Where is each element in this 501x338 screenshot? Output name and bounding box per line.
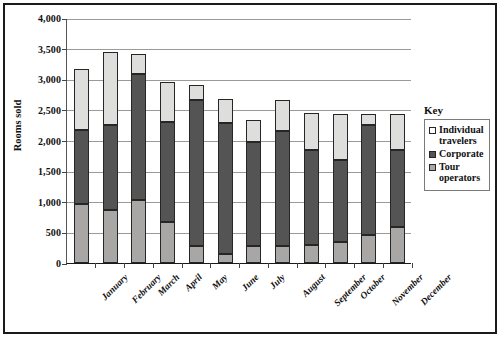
bar-segment-individual[interactable] (246, 120, 261, 142)
y-tick-label: 0 (56, 259, 61, 269)
legend-item[interactable]: Individual travelers (429, 124, 486, 146)
bar-segment-corporate[interactable] (304, 150, 319, 245)
bar-segment-individual[interactable] (131, 54, 146, 75)
bar-segment-tour[interactable] (74, 204, 89, 263)
x-tick-label: January (100, 272, 130, 302)
bar-segment-individual[interactable] (304, 113, 319, 150)
bar-segment-tour[interactable] (246, 246, 261, 263)
y-tick-label: 2,000 (38, 137, 61, 147)
y-tick-label: 4,000 (38, 14, 61, 24)
bar-segment-individual[interactable] (361, 114, 376, 125)
bar-stack[interactable] (246, 120, 261, 263)
bar-segment-individual[interactable] (333, 114, 348, 161)
bar-segment-tour[interactable] (390, 227, 405, 263)
legend-item[interactable]: Corporate (429, 148, 486, 159)
y-axis-tick-labels: 05001,0001,5002,0002,5003,0003,5004,000 (14, 19, 61, 264)
bar-stack[interactable] (189, 85, 204, 263)
bar-segment-tour[interactable] (361, 235, 376, 263)
x-tick-label: May (210, 272, 229, 291)
plot-area (66, 19, 411, 264)
chart-figure: Rooms sold 05001,0001,5002,0002,5003,000… (0, 0, 501, 338)
bar-segment-individual[interactable] (74, 69, 89, 130)
bar-segment-tour[interactable] (275, 246, 290, 263)
legend-swatch-icon (429, 151, 436, 158)
bar-segment-corporate[interactable] (390, 150, 405, 228)
bar-segment-individual[interactable] (160, 82, 175, 122)
legend-swatch-icon (429, 127, 436, 134)
bar-segment-tour[interactable] (333, 242, 348, 263)
bar-stack[interactable] (275, 100, 290, 263)
bar-segment-tour[interactable] (131, 200, 146, 263)
bar-segment-tour[interactable] (160, 222, 175, 263)
bar-segment-corporate[interactable] (361, 125, 376, 236)
bar-segment-individual[interactable] (189, 85, 204, 100)
bar-segment-individual[interactable] (275, 100, 290, 131)
x-tick-mark (412, 263, 413, 268)
y-tick-label: 1,500 (38, 167, 61, 177)
x-tick-label: August (300, 272, 327, 299)
bar-segment-tour[interactable] (304, 245, 319, 263)
y-tick-label: 3,500 (38, 45, 61, 55)
bar-segment-corporate[interactable] (189, 100, 204, 246)
bar-segment-tour[interactable] (103, 210, 118, 263)
bar-stack[interactable] (74, 69, 89, 263)
x-tick-label: April (183, 272, 204, 293)
legend-swatch-icon (429, 164, 436, 171)
bar-segment-corporate[interactable] (218, 123, 233, 254)
legend-item[interactable]: Tour operators (429, 161, 486, 183)
bar-stack[interactable] (333, 114, 348, 263)
bar-segment-corporate[interactable] (160, 122, 175, 222)
legend: Key Individual travelersCorporateTour op… (424, 104, 490, 191)
legend-item-label: Corporate (439, 148, 483, 159)
bar-stack[interactable] (390, 114, 405, 263)
bar-stack[interactable] (218, 99, 233, 263)
y-tick-label: 500 (46, 228, 61, 238)
bar-series-container (67, 19, 411, 263)
y-tick-label: 2,500 (38, 106, 61, 116)
legend-item-label: Tour operators (439, 161, 486, 183)
bar-segment-corporate[interactable] (246, 142, 261, 246)
bar-stack[interactable] (160, 82, 175, 263)
bar-segment-corporate[interactable] (333, 160, 348, 241)
x-axis-tick-labels: JanuaryFebruaryMarchAprilMayJuneJulyAugu… (66, 264, 411, 332)
legend-box: Individual travelersCorporateTour operat… (424, 119, 490, 191)
bar-segment-corporate[interactable] (275, 131, 290, 246)
bar-segment-tour[interactable] (189, 246, 204, 263)
x-tick-label: July (268, 272, 287, 291)
bar-segment-individual[interactable] (218, 99, 233, 123)
bar-segment-corporate[interactable] (74, 130, 89, 204)
bar-segment-individual[interactable] (390, 114, 405, 150)
bar-stack[interactable] (103, 52, 118, 263)
bar-segment-tour[interactable] (218, 254, 233, 263)
bar-stack[interactable] (131, 54, 146, 263)
bar-stack[interactable] (361, 114, 376, 263)
y-tick-label: 1,000 (38, 198, 61, 208)
legend-item-label: Individual travelers (439, 124, 486, 146)
bar-stack[interactable] (304, 113, 319, 263)
bar-segment-individual[interactable] (103, 52, 118, 125)
legend-title: Key (424, 104, 490, 116)
y-tick-label: 3,000 (38, 75, 61, 85)
bar-segment-corporate[interactable] (131, 74, 146, 200)
bar-segment-corporate[interactable] (103, 125, 118, 211)
x-tick-label: June (240, 272, 261, 293)
